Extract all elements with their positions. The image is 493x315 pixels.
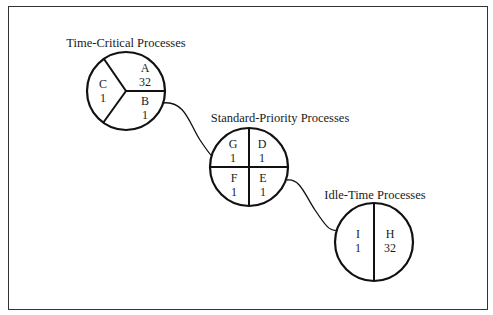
partition-value: 32 [384, 241, 396, 255]
partition-value: 1 [355, 241, 361, 255]
group-idle-time: Idle-Time Processes I 1 H 32 [324, 188, 425, 281]
partition-name: I [356, 227, 360, 241]
partition-value: 1 [259, 151, 265, 165]
partition-name: G [229, 137, 238, 151]
group-title: Idle-Time Processes [324, 188, 425, 202]
partition-value: 1 [231, 185, 237, 199]
partition-value: 1 [100, 91, 106, 105]
partition-name: D [258, 137, 267, 151]
group-title: Time-Critical Processes [66, 36, 185, 50]
partition-value: 1 [230, 151, 236, 165]
partition-value: 32 [139, 75, 151, 89]
partition-name: C [99, 77, 107, 91]
partition-name: A [141, 61, 150, 75]
partition-name: H [386, 227, 395, 241]
group-time-critical: Time-Critical Processes A 32 B 1 C 1 [66, 36, 185, 130]
process-priority-diagram: Time-Critical Processes A 32 B 1 C 1 Sta… [0, 0, 493, 315]
partition-name: B [141, 94, 149, 108]
partition-value: 1 [142, 108, 148, 122]
partition-value: 1 [260, 185, 266, 199]
partition-name: E [259, 171, 266, 185]
group-title: Standard-Priority Processes [211, 111, 350, 125]
partition-name: F [231, 171, 238, 185]
